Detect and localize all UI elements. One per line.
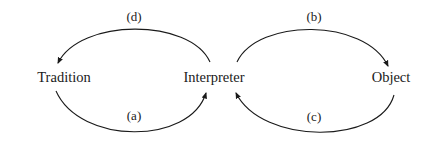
interpretation-cycle-diagram: Tradition Interpreter Object (a) (b) (c)… (0, 0, 428, 145)
edge-d-arrow (58, 29, 210, 63)
node-object: Object (372, 69, 411, 85)
node-tradition: Tradition (37, 69, 90, 85)
edge-label-b: (b) (306, 10, 321, 24)
edge-label-a: (a) (127, 109, 141, 123)
edge-b-arrow (237, 29, 388, 66)
edge-label-c: (c) (307, 110, 321, 124)
node-interpreter: Interpreter (183, 69, 244, 85)
edge-label-d: (d) (126, 10, 141, 24)
